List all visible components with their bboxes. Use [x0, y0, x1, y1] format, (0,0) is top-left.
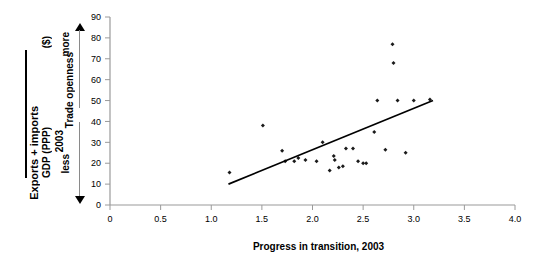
data-point-marker — [412, 99, 416, 103]
data-point-marker — [344, 147, 348, 151]
x-axis-title-wrap: Progress in transition, 2003 — [0, 236, 537, 254]
x-tick-label: 3.0 — [407, 214, 420, 224]
y-tick-label: 40 — [91, 117, 101, 127]
data-point-marker — [337, 165, 341, 169]
x-tick-label: 3.5 — [458, 214, 471, 224]
data-point-marker — [404, 151, 408, 155]
data-point-marker — [328, 169, 332, 173]
data-point-marker — [396, 99, 400, 103]
y-tick-label: 30 — [91, 138, 101, 148]
y-tick-label: 20 — [91, 158, 101, 168]
data-point-marker — [375, 99, 379, 103]
x-tick-label: 0 — [107, 214, 112, 224]
data-point-marker — [383, 148, 387, 152]
data-point-marker — [372, 130, 376, 134]
data-point-marker — [261, 124, 265, 128]
chart-figure: Exports + imports GDP (PPP) ($) 2003 mor… — [0, 0, 537, 259]
data-point-marker — [356, 159, 360, 163]
data-point-marker — [333, 158, 337, 162]
data-point-marker — [227, 171, 231, 175]
data-point-marker — [341, 164, 345, 168]
trend-line — [228, 101, 433, 185]
data-point-marker — [303, 158, 307, 162]
scatter-plot-canvas: 0102030405060708090 00.51.01.52.02.53.03… — [0, 0, 537, 259]
data-point-marker — [292, 159, 296, 163]
data-point-marker — [390, 42, 394, 46]
x-axis-title: Progress in transition, 2003 — [153, 241, 384, 252]
y-tick-label: 0 — [96, 200, 101, 210]
y-tick-label: 70 — [91, 54, 101, 64]
x-axis-ticks: 00.51.01.52.02.53.03.54.0 — [107, 205, 521, 224]
y-tick-label: 60 — [91, 75, 101, 85]
data-point-marker — [351, 147, 355, 151]
data-point-marker — [321, 140, 325, 144]
y-tick-label: 80 — [91, 33, 101, 43]
x-tick-label: 4.0 — [509, 214, 522, 224]
x-tick-label: 1.5 — [256, 214, 269, 224]
y-tick-label: 50 — [91, 96, 101, 106]
data-point-marker — [392, 61, 396, 65]
x-tick-label: 2.0 — [306, 214, 319, 224]
data-points — [227, 42, 431, 174]
y-tick-label: 10 — [91, 179, 101, 189]
data-point-marker — [364, 161, 368, 165]
x-tick-label: 0.5 — [154, 214, 167, 224]
data-point-marker — [332, 154, 336, 158]
x-tick-label: 1.0 — [205, 214, 218, 224]
y-tick-label: 90 — [91, 12, 101, 22]
y-axis-ticks: 0102030405060708090 — [91, 12, 110, 210]
x-tick-label: 2.5 — [357, 214, 370, 224]
data-point-marker — [315, 159, 319, 163]
data-point-marker — [280, 149, 284, 153]
